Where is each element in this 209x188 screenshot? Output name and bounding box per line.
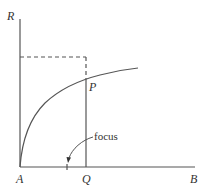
label-Q: Q (82, 172, 91, 186)
label-A: A (15, 172, 24, 186)
arrowhead-icon (67, 157, 72, 163)
label-R: R (6, 9, 15, 23)
label-B: B (190, 172, 198, 186)
curve (20, 68, 138, 167)
diagram-canvas: R B A P Q focus (0, 0, 209, 188)
label-P: P (88, 80, 97, 94)
focus-arrow (69, 137, 93, 158)
label-focus: focus (94, 130, 118, 142)
